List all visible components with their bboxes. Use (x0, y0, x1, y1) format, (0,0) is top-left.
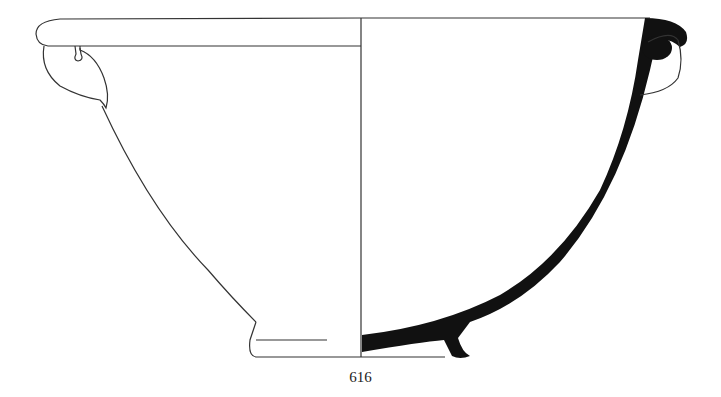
pottery-drawing (0, 0, 721, 397)
catalogue-number: 616 (0, 369, 721, 386)
handle-section (642, 36, 672, 60)
handle-knob (75, 46, 82, 61)
section-profile (361, 18, 687, 358)
bowl-wall (102, 106, 256, 322)
rim-band (36, 18, 361, 46)
exterior-view (36, 18, 650, 357)
section-fill (362, 18, 687, 358)
